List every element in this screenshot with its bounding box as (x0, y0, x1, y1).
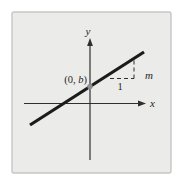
run-label: 1 (117, 81, 122, 92)
y-axis-label: y (85, 25, 91, 37)
slope-intercept-figure: y x (0, b) 1 m (0, 0, 179, 187)
y-intercept-point (87, 84, 92, 89)
intercept-label-suffix: ) (84, 74, 88, 86)
figure-canvas: y x (0, b) 1 m (0, 0, 179, 187)
intercept-label-prefix: (0, (64, 74, 78, 86)
figure-panel (12, 12, 171, 173)
x-axis-label: x (149, 97, 155, 109)
intercept-label: (0, b) (64, 74, 87, 86)
slope-label: m (145, 69, 153, 81)
